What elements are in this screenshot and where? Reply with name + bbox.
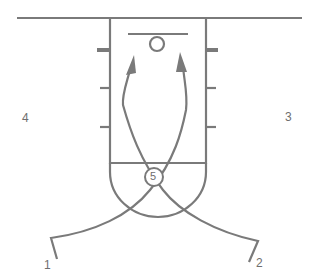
hoop-icon bbox=[150, 37, 164, 51]
cut-path-player-2 bbox=[123, 70, 258, 262]
court-diagram bbox=[0, 0, 314, 278]
player-4-label: 4 bbox=[22, 111, 29, 125]
player-1-label: 1 bbox=[44, 258, 51, 272]
arrowhead-icon bbox=[176, 52, 187, 72]
player-5-label: 5 bbox=[150, 170, 156, 182]
player-3-label: 3 bbox=[285, 110, 292, 124]
player-2-label: 2 bbox=[256, 256, 263, 270]
arrowhead-icon bbox=[126, 55, 136, 75]
